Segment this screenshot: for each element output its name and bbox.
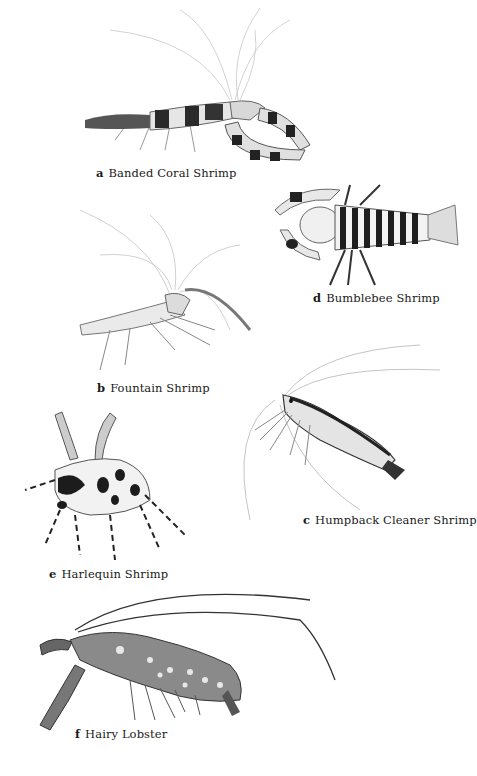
- caption-letter: f: [75, 727, 80, 741]
- hairy-lobster-illustration: [0, 0, 470, 740]
- caption-hairy-lobster: fHairy Lobster: [75, 727, 167, 741]
- caption-text: Hairy Lobster: [85, 727, 167, 741]
